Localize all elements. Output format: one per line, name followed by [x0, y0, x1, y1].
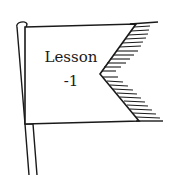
flag-text-line2: -1 — [36, 74, 106, 89]
flag-illustration: Lesson -1 — [0, 0, 179, 175]
flag-text-line1: Lesson — [36, 50, 106, 65]
